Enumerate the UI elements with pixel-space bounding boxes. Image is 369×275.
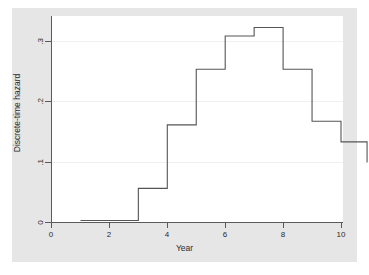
y-axis-line <box>51 16 52 223</box>
gridline-0.3 <box>52 41 343 42</box>
gridline-0.2 <box>52 101 343 102</box>
x-tick-label-2: 2 <box>97 230 121 239</box>
x-axis-line <box>51 222 343 223</box>
x-tick-label-4: 4 <box>155 230 179 239</box>
x-tick-2 <box>109 223 110 228</box>
x-tick-label-6: 6 <box>213 230 237 239</box>
x-tick-label-10: 10 <box>329 230 353 239</box>
x-tick-6 <box>225 223 226 228</box>
x-tick-4 <box>167 223 168 228</box>
y-tick-0.2 <box>45 101 51 102</box>
x-tick-label-0: 0 <box>39 230 63 239</box>
plot-area <box>51 16 343 223</box>
x-tick-0 <box>51 223 52 228</box>
chart-screenshot: 0 .1 .2 .3 0 2 4 6 8 10 Year Discrete-ti… <box>0 0 369 275</box>
y-tick-label-0.1: .1 <box>36 152 45 174</box>
x-tick-label-8: 8 <box>271 230 295 239</box>
x-tick-8 <box>283 223 284 228</box>
y-tick-label-0.2: .2 <box>36 91 45 113</box>
x-tick-10 <box>341 223 342 228</box>
x-axis-title: Year <box>0 243 369 253</box>
y-tick-0.3 <box>45 41 51 42</box>
gridline-0.1 <box>52 162 343 163</box>
y-tick-0.1 <box>45 162 51 163</box>
y-tick-label-0.3: .3 <box>36 31 45 53</box>
y-axis-title: Discrete-time hazard <box>12 63 22 163</box>
